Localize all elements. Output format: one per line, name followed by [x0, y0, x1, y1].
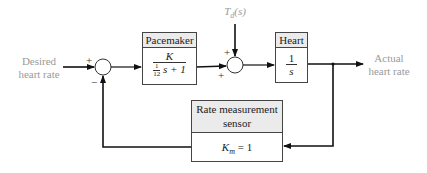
pacemaker-transfer-function: K 1 12 s + 1 [153, 50, 185, 78]
input-label: Desired heart rate [14, 55, 64, 81]
heart-title: Heart [276, 33, 307, 48]
pacemaker-block: Pacemaker K 1 12 s + 1 [142, 32, 197, 85]
heart-block: Heart 1 s [275, 32, 308, 83]
sensor-block: Rate measurement sensor Km = 1 [191, 100, 283, 162]
sum2-plus-top-sign: + [224, 47, 230, 57]
heart-transfer-function: 1 s [286, 52, 298, 77]
pacemaker-title: Pacemaker [143, 33, 196, 48]
sum1-plus-sign: + [86, 55, 92, 65]
disturbance-label: Td(s) [220, 5, 250, 22]
sensor-title: Rate measurement sensor [192, 101, 282, 133]
sum2-plus-left-sign: + [218, 70, 224, 80]
sum1-minus-sign: − [91, 77, 97, 87]
sensor-gain: Km = 1 [192, 133, 282, 156]
output-label: Actual heart rate [364, 52, 414, 78]
